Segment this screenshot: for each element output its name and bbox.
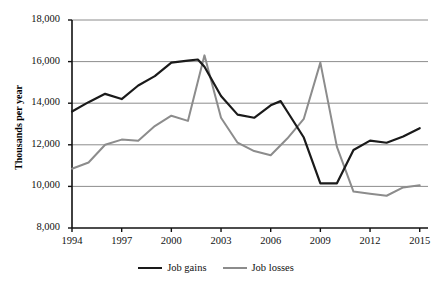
legend-label-job-gains: Job gains [167,262,206,273]
legend-item-job-gains: Job gains [138,262,206,273]
legend-label-job-losses: Job losses [252,262,294,273]
series-line-job-losses [72,55,420,195]
legend-swatch-job-gains [138,267,162,269]
series-line-job-gains [72,60,420,184]
chart-container: Thousands per year 8,00010,00012,00014,0… [0,0,432,284]
legend-swatch-job-losses [223,267,247,269]
chart-legend: Job gains Job losses [0,262,432,273]
plot-area [0,0,432,284]
legend-item-job-losses: Job losses [223,262,294,273]
